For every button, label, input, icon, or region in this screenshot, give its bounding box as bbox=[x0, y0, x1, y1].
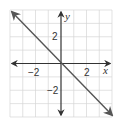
x-tick-label-neg: −2 bbox=[28, 67, 40, 78]
y-axis-label: y bbox=[64, 10, 70, 22]
y-tick-label-pos: 2 bbox=[52, 31, 58, 42]
x-axis-label: x bbox=[102, 64, 108, 76]
y-tick-label-neg: −2 bbox=[47, 85, 59, 96]
coordinate-plane: y x 2 −2 −2 2 bbox=[0, 0, 119, 125]
x-tick-label-pos: 2 bbox=[84, 67, 90, 78]
